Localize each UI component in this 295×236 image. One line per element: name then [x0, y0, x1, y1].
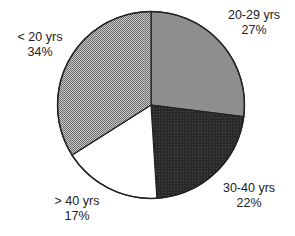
label-30-40: 30-40 yrs 22%	[212, 181, 286, 211]
slice-name: 20-29 yrs	[218, 8, 290, 23]
pie-slices	[58, 12, 245, 199]
slice-name: < 20 yrs	[10, 30, 70, 45]
slice-percent: 22%	[212, 196, 286, 211]
slice-name: > 40 yrs	[46, 194, 108, 209]
slice-percent: 34%	[10, 45, 70, 60]
label-under-20: < 20 yrs 34%	[10, 30, 70, 60]
label-over-40: > 40 yrs 17%	[46, 194, 108, 224]
slice-name: 30-40 yrs	[212, 181, 286, 196]
slice-percent: 27%	[218, 23, 290, 38]
slice-percent: 17%	[46, 209, 108, 224]
label-20-29: 20-29 yrs 27%	[218, 8, 290, 38]
